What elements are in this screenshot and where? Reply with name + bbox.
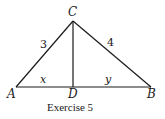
vertex-label-d: D — [67, 87, 78, 101]
side-label-ac: 3 — [40, 38, 47, 51]
figure-caption: Exercise 5 — [47, 101, 94, 113]
segment-cb — [73, 21, 151, 87]
triangle-diagram: C A D B 3 4 x y Exercise 5 — [0, 0, 165, 119]
segment-label-y: y — [104, 73, 112, 86]
vertex-label-c: C — [68, 5, 77, 19]
triangle-lines — [16, 21, 151, 87]
side-label-cb: 4 — [107, 36, 114, 49]
segment-label-x: x — [40, 73, 47, 86]
vertex-label-b: B — [146, 87, 156, 101]
vertex-label-a: A — [6, 87, 16, 101]
